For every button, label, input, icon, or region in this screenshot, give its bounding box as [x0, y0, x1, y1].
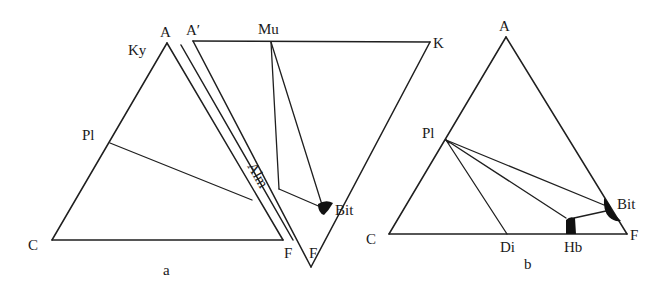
edge-aprime-f: [193, 41, 311, 267]
label-b-A: A: [499, 18, 510, 34]
label-a-Pl: Pl: [82, 127, 95, 143]
label-a-Bit: Bit: [335, 202, 354, 218]
label-b-Di: Di: [500, 239, 515, 255]
hb-phase-region: [566, 217, 576, 234]
label-a-Aprime: A′: [186, 22, 200, 38]
label-a-C: C: [28, 237, 38, 253]
label-b-Bit: Bit: [617, 196, 636, 212]
phase-diagram-figure: A Ky Pl C F A′ Mu K Alm Bit F a: [0, 0, 668, 297]
label-a-Mu: Mu: [258, 21, 279, 37]
panel-a: A Ky Pl C F A′ Mu K Alm Bit F a: [28, 21, 444, 278]
caption-b: b: [524, 256, 532, 272]
label-a-F1: F: [284, 245, 292, 261]
tie-pl-di: [446, 140, 507, 234]
tie-alm-bit: [279, 189, 323, 208]
panel-b: A Pl C Di Hb F Bit b: [366, 18, 638, 272]
akf-triangle: [181, 41, 430, 267]
tie-pl-bit: [446, 140, 604, 205]
label-a-K: K: [433, 35, 444, 51]
label-a-Ky: Ky: [128, 42, 147, 58]
caption-a: a: [163, 262, 170, 278]
label-b-C: C: [366, 231, 376, 247]
label-a-A: A: [160, 24, 171, 40]
edge-a-left: [52, 43, 167, 240]
edge-a-right: [167, 43, 283, 240]
label-a-F2: F: [309, 245, 317, 261]
edge-aprime-k: [193, 41, 430, 42]
tie-hb-bit: [574, 211, 606, 218]
bit-phase-region-a: [318, 201, 333, 215]
tie-pl-hb: [446, 140, 566, 218]
label-b-F: F: [630, 227, 638, 243]
label-b-Pl: Pl: [422, 125, 435, 141]
label-a-Alm: Alm: [244, 160, 271, 191]
label-b-Hb: Hb: [564, 239, 582, 255]
